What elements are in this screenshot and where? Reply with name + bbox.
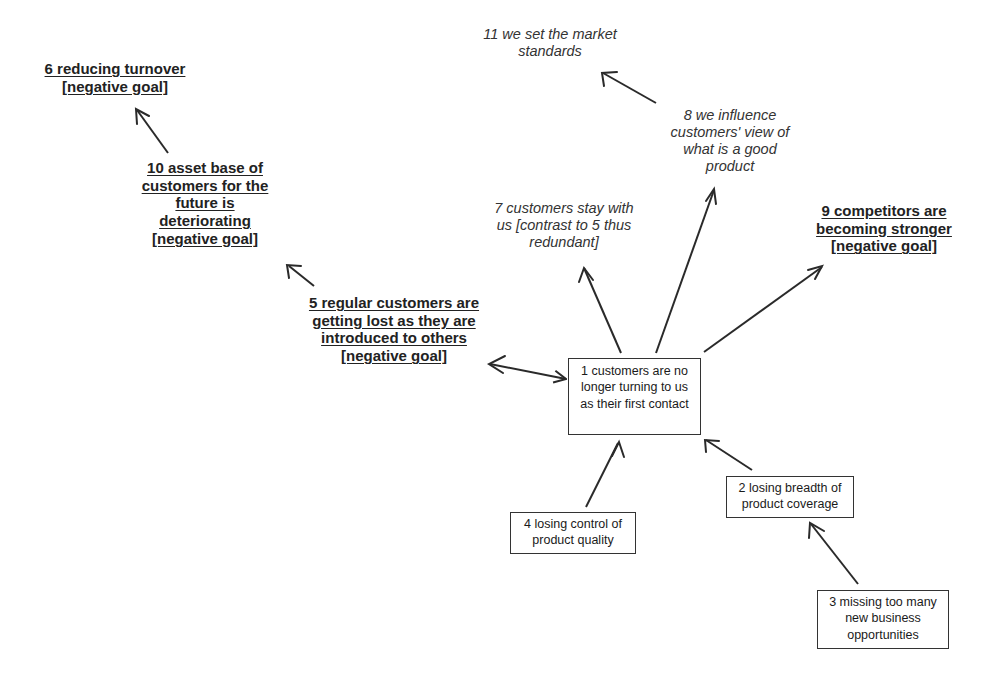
edge-2-to-1	[706, 440, 752, 470]
node-10-label: 10 asset base of customers for the futur…	[142, 159, 269, 247]
edge-3-to-2	[811, 524, 858, 584]
node-11-label: 11 we set the market standards	[483, 26, 617, 59]
node-3-missing-opportunities: 3 missing too many new business opportun…	[817, 590, 949, 649]
node-7-customers-stay: 7 customers stay with us [contrast to 5 …	[490, 200, 638, 251]
node-7-label: 7 customers stay with us [contrast to 5 …	[494, 200, 633, 250]
node-9-competitors-stronger: 9 competitors are becoming stronger [neg…	[800, 202, 968, 255]
node-4-label: 4 losing control of product quality	[524, 517, 622, 547]
edge-1-to-8	[656, 190, 714, 353]
node-6-label: 6 reducing turnover [negative goal]	[45, 60, 186, 95]
node-2-losing-breadth: 2 losing breadth of product coverage	[726, 476, 854, 518]
node-11-market-standards: 11 we set the market standards	[465, 26, 635, 60]
node-8-label: 8 we influence customers' view of what i…	[671, 107, 790, 174]
node-2-label: 2 losing breadth of product coverage	[739, 481, 842, 511]
node-3-label: 3 missing too many new business opportun…	[829, 595, 937, 642]
edge-1-to-9	[704, 267, 822, 352]
node-5-regular-customers-lost: 5 regular customers are getting lost as …	[306, 294, 482, 365]
edge-10-to-6	[137, 110, 168, 153]
edge-5-to-10	[289, 266, 314, 286]
edges-layer	[0, 0, 991, 674]
node-1-customers-not-first-contact: 1 customers are no longer turning to us …	[568, 358, 701, 435]
node-5-label: 5 regular customers are getting lost as …	[309, 294, 479, 364]
edge-8-to-11	[603, 73, 656, 103]
node-10-asset-base: 10 asset base of customers for the futur…	[128, 159, 282, 247]
node-6-reducing-turnover: 6 reducing turnover [negative goal]	[30, 60, 200, 95]
node-4-losing-quality-control: 4 losing control of product quality	[510, 512, 636, 554]
cause-map-diagram: 6 reducing turnover [negative goal] 10 a…	[0, 0, 991, 674]
edge-1-to-7	[584, 268, 621, 353]
node-1-label: 1 customers are no longer turning to us …	[580, 364, 688, 411]
node-8-influence-view: 8 we influence customers' view of what i…	[660, 107, 800, 175]
node-9-label: 9 competitors are becoming stronger [neg…	[816, 202, 952, 254]
